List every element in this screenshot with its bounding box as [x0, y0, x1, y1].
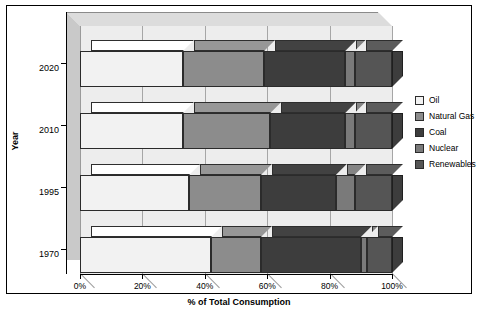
- bar-segment-1995-renewables[interactable]: [355, 175, 392, 211]
- bar-segment-top-2010-coal: [281, 102, 356, 113]
- plot-top-edge: [66, 12, 378, 13]
- x-tick-100: [392, 274, 393, 279]
- x-tick-80: [330, 274, 331, 279]
- bar-segment-top-2010-oil: [91, 102, 194, 113]
- legend-swatch-icon-coal: [415, 128, 424, 137]
- bar-1995: [80, 175, 392, 211]
- legend-label: Oil: [429, 95, 439, 105]
- bar-segment-1995-natural-gas[interactable]: [189, 175, 261, 211]
- x-tick-label-40: 40%: [185, 281, 225, 291]
- chart-frame: 0%20%40%60%80%100% 2020201019951970 % of…: [6, 5, 472, 294]
- x-tick-label-60: 60%: [247, 281, 287, 291]
- bar-end-cap-2020: [392, 51, 403, 87]
- bar-segment-top-2020-oil: [91, 40, 194, 51]
- x-tick-60: [267, 274, 268, 279]
- y-tick-1995: [61, 187, 66, 188]
- x-axis-line: [80, 274, 393, 275]
- bar-end-cap-1995: [392, 175, 403, 211]
- x-axis-title: % of Total Consumption: [7, 297, 471, 307]
- bar-segment-2020-natural-gas[interactable]: [183, 51, 264, 87]
- bar-1970: [80, 237, 392, 273]
- bar-segment-2020-renewables[interactable]: [355, 51, 392, 87]
- x-tick-label-0: 0%: [60, 281, 100, 291]
- plot-back-top-panel: [66, 12, 392, 26]
- bar-segment-1970-coal[interactable]: [261, 237, 361, 273]
- bar-segment-2020-coal[interactable]: [264, 51, 345, 87]
- y-axis-title: Year: [10, 111, 20, 171]
- y-tick-2020: [61, 63, 66, 64]
- bar-segment-1970-natural-gas[interactable]: [211, 237, 261, 273]
- y-tick-label-1995: 1995: [15, 187, 59, 197]
- legend-item-renewables[interactable]: Renewables: [415, 156, 479, 172]
- bar-segment-1995-nuclear[interactable]: [336, 175, 355, 211]
- x-tick-label-20: 20%: [122, 281, 162, 291]
- legend-label: Renewables: [429, 159, 476, 169]
- y-tick-1970: [61, 249, 66, 250]
- bar-segment-2010-oil[interactable]: [80, 113, 183, 149]
- bar-end-cap-1970: [392, 237, 403, 273]
- y-tick-label-2020: 2020: [15, 63, 59, 73]
- bar-segment-top-1970-coal: [272, 226, 372, 237]
- legend-swatch-icon-oil: [415, 96, 424, 105]
- y-tick-label-2010: 2010: [15, 125, 59, 135]
- legend-item-natural-gas[interactable]: Natural Gas: [415, 108, 479, 124]
- legend-item-oil[interactable]: Oil: [415, 92, 479, 108]
- bar-segment-top-1995-natural-gas: [200, 164, 272, 175]
- bar-segment-1970-oil[interactable]: [80, 237, 211, 273]
- bar-segment-top-1995-coal: [272, 164, 347, 175]
- bar-segment-top-2010-renewables: [366, 102, 403, 113]
- legend-swatch-icon-natural-gas: [415, 112, 424, 121]
- bar-segment-1995-oil[interactable]: [80, 175, 189, 211]
- x-tick-20: [142, 274, 143, 279]
- bar-segment-top-1995-oil: [91, 164, 200, 175]
- bar-2020: [80, 51, 392, 87]
- x-tick-label-80: 80%: [310, 281, 350, 291]
- bar-segment-top-2020-natural-gas: [194, 40, 275, 51]
- bar-segment-2020-nuclear[interactable]: [345, 51, 354, 87]
- plot-area: [80, 26, 392, 274]
- bar-segment-top-2020-coal: [275, 40, 356, 51]
- legend-item-nuclear[interactable]: Nuclear: [415, 140, 479, 156]
- bar-segment-1995-coal[interactable]: [261, 175, 336, 211]
- bar-segment-2010-coal[interactable]: [270, 113, 345, 149]
- legend-swatch-icon-renewables: [415, 160, 424, 169]
- bar-segment-2020-oil[interactable]: [80, 51, 183, 87]
- legend-item-coal[interactable]: Coal: [415, 124, 479, 140]
- x-tick-40: [205, 274, 206, 279]
- bar-segment-top-1995-renewables: [366, 164, 403, 175]
- y-axis-line: [66, 12, 67, 274]
- x-tick-0: [80, 274, 81, 279]
- bar-segment-1970-renewables[interactable]: [367, 237, 392, 273]
- bar-segment-top-2020-renewables: [366, 40, 403, 51]
- legend-swatch-icon-nuclear: [415, 144, 424, 153]
- legend-label: Nuclear: [429, 143, 458, 153]
- bar-segment-top-1970-renewables: [378, 226, 403, 237]
- bar-segment-top-1970-oil: [91, 226, 222, 237]
- y-tick-2010: [61, 125, 66, 126]
- bar-segment-2010-renewables[interactable]: [355, 113, 392, 149]
- bar-segment-2010-nuclear[interactable]: [345, 113, 354, 149]
- legend: OilNatural GasCoalNuclearRenewables: [415, 92, 479, 172]
- legend-label: Natural Gas: [429, 111, 474, 121]
- bar-segment-2010-natural-gas[interactable]: [183, 113, 270, 149]
- y-tick-label-1970: 1970: [15, 249, 59, 259]
- x-tick-label-100: 100%: [372, 281, 412, 291]
- plot-left-wall-panel: [66, 12, 80, 260]
- legend-label: Coal: [429, 127, 446, 137]
- bar-end-cap-2010: [392, 113, 403, 149]
- bar-2010: [80, 113, 392, 149]
- bar-segment-top-2010-natural-gas: [194, 102, 281, 113]
